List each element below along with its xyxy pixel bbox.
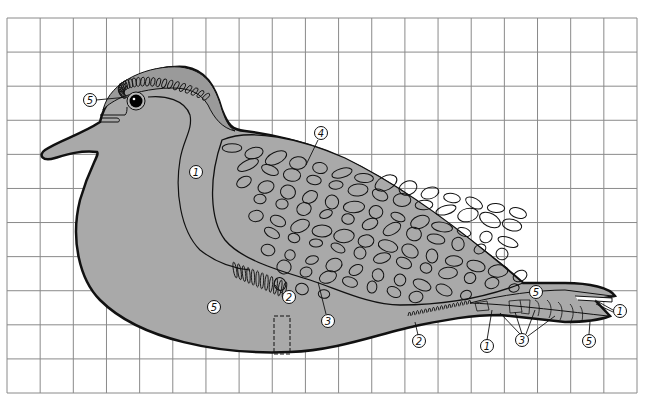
callout-number: 3 (325, 316, 331, 327)
callout-breast-feathers: 2 (283, 291, 296, 304)
callout-tail-bars: 3 (516, 334, 529, 347)
callout-tail-left: 1 (481, 340, 494, 353)
callout-head-cap: 5 (84, 94, 97, 107)
callout-neck: 1 (190, 166, 203, 179)
dove-body (42, 67, 615, 354)
eye (130, 95, 143, 108)
callout-number: 1 (484, 341, 490, 352)
callout-under-feathers: 2 (413, 335, 426, 348)
callout-number: 2 (286, 292, 292, 303)
callout-wing-edge: 3 (322, 315, 335, 328)
callout-tail-top: 5 (530, 286, 543, 299)
callout-number: 4 (318, 128, 324, 139)
callout-number: 5 (586, 336, 592, 347)
callout-number: 5 (211, 302, 217, 313)
callout-tail-bottom: 5 (583, 335, 596, 348)
callout-wing-top: 4 (315, 127, 328, 140)
callout-tail-tip: 1 (614, 305, 627, 318)
callout-number: 5 (533, 287, 539, 298)
dove-pattern-diagram: 514253213515 (0, 0, 645, 395)
callout-number: 1 (193, 167, 199, 178)
eye-highlight (133, 98, 136, 101)
callout-number: 1 (617, 306, 623, 317)
callout-number: 3 (519, 335, 525, 346)
callout-number: 5 (87, 95, 93, 106)
callout-number: 2 (416, 336, 422, 347)
callout-belly: 5 (208, 301, 221, 314)
